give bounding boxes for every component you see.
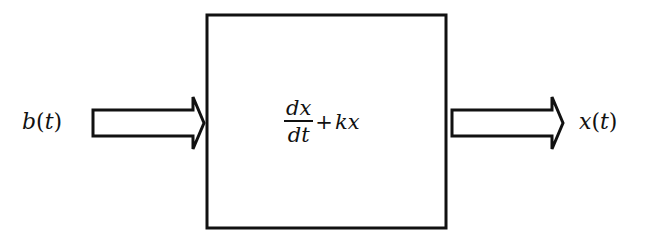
kx-term: kx: [335, 110, 360, 134]
paren-open: (: [36, 109, 45, 134]
fraction-denominator: dt: [286, 122, 312, 148]
paren-open: (: [591, 109, 600, 134]
output-arrow: [452, 97, 563, 149]
output-argument: t: [600, 109, 609, 134]
equation-rest: +kx: [315, 110, 359, 134]
plus-sign: +: [315, 110, 333, 134]
paren-close: ): [54, 109, 63, 134]
input-label: b(t): [22, 109, 62, 134]
derivative-fraction: dx dt: [284, 96, 313, 148]
input-argument: t: [45, 109, 54, 134]
output-variable: x: [579, 109, 591, 134]
output-label: x(t): [579, 109, 617, 134]
fraction-numerator: dx: [284, 96, 313, 120]
block-equation: dx dt +kx: [284, 96, 359, 148]
paren-close: ): [609, 109, 618, 134]
input-variable: b: [22, 109, 36, 134]
input-arrow: [93, 97, 204, 149]
